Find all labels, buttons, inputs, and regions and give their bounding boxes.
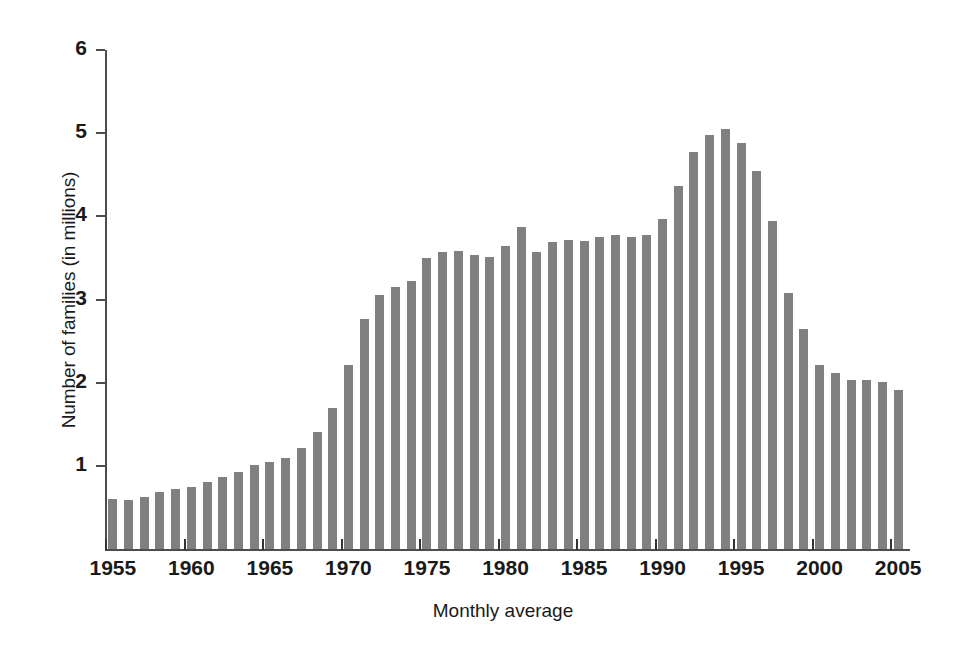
bar-1978 bbox=[470, 255, 479, 549]
bar-1990 bbox=[658, 219, 667, 549]
bar-2002 bbox=[847, 380, 856, 549]
bar-1998 bbox=[784, 293, 793, 549]
bar-1955 bbox=[108, 499, 117, 549]
x-axis-line bbox=[105, 549, 910, 551]
y-tick-5: 5 bbox=[96, 132, 105, 134]
bar-1970 bbox=[344, 365, 353, 549]
y-tick-label-3: 3 bbox=[75, 287, 96, 309]
bar-1985 bbox=[580, 241, 589, 549]
bar-1980 bbox=[501, 246, 510, 549]
bar-1981 bbox=[517, 227, 526, 549]
y-tick-label-5: 5 bbox=[75, 120, 96, 142]
y-tick-1: 1 bbox=[96, 465, 105, 467]
bar-1979 bbox=[485, 257, 494, 549]
bar-1997 bbox=[768, 221, 777, 549]
bar-1964 bbox=[250, 465, 259, 549]
y-tick-label-2: 2 bbox=[75, 370, 96, 392]
bar-1973 bbox=[391, 287, 400, 549]
bar-1976 bbox=[438, 252, 447, 549]
bar-1992 bbox=[689, 152, 698, 549]
x-tick-label-1980: 1980 bbox=[482, 556, 529, 580]
bar-1996 bbox=[752, 171, 761, 549]
bar-1958 bbox=[155, 492, 164, 549]
bar-1984 bbox=[564, 240, 573, 549]
y-tick-4: 4 bbox=[96, 215, 105, 217]
bar-2003 bbox=[862, 380, 871, 549]
x-tick-label-1985: 1985 bbox=[561, 556, 608, 580]
x-tick-label-1995: 1995 bbox=[718, 556, 765, 580]
bar-2005 bbox=[894, 390, 903, 549]
bar-1956 bbox=[124, 500, 133, 549]
bar-1959 bbox=[171, 489, 180, 549]
bar-1962 bbox=[218, 477, 227, 549]
bar-1960 bbox=[187, 487, 196, 549]
bar-1971 bbox=[360, 319, 369, 549]
bar-1999 bbox=[799, 329, 808, 549]
x-axis-title: Monthly average bbox=[100, 600, 906, 622]
bar-1995 bbox=[737, 143, 746, 549]
bar-1966 bbox=[281, 458, 290, 549]
bar-chart: Number of families (in millions) 123456 … bbox=[0, 0, 954, 650]
bar-2004 bbox=[878, 382, 887, 549]
x-tick-label-2000: 2000 bbox=[796, 556, 843, 580]
y-tick-label-1: 1 bbox=[75, 453, 96, 475]
y-tick-6: 6 bbox=[96, 49, 105, 51]
bar-1961 bbox=[203, 482, 212, 549]
bar-1986 bbox=[595, 237, 604, 549]
bar-1969 bbox=[328, 408, 337, 549]
bar-2001 bbox=[831, 373, 840, 549]
bar-1974 bbox=[407, 281, 416, 549]
bar-1994 bbox=[721, 129, 730, 549]
bar-1975 bbox=[422, 258, 431, 549]
plot-area bbox=[105, 50, 906, 549]
y-tick-label-4: 4 bbox=[75, 203, 96, 225]
bar-1983 bbox=[548, 242, 557, 549]
bar-1967 bbox=[297, 448, 306, 549]
bar-1977 bbox=[454, 251, 463, 549]
bar-2000 bbox=[815, 365, 824, 549]
bar-1972 bbox=[375, 295, 384, 549]
x-tick-label-1990: 1990 bbox=[639, 556, 686, 580]
x-tick-label-1965: 1965 bbox=[247, 556, 294, 580]
bar-1965 bbox=[265, 462, 274, 549]
x-tick-label-1955: 1955 bbox=[89, 556, 136, 580]
bar-1957 bbox=[140, 497, 149, 549]
bar-1989 bbox=[642, 235, 651, 549]
y-tick-label-6: 6 bbox=[75, 37, 96, 59]
y-tick-2: 2 bbox=[96, 382, 105, 384]
bar-1993 bbox=[705, 135, 714, 549]
bar-1987 bbox=[611, 235, 620, 549]
bar-1988 bbox=[627, 237, 636, 549]
bar-1963 bbox=[234, 472, 243, 549]
bar-1982 bbox=[532, 252, 541, 549]
bar-1968 bbox=[313, 432, 322, 549]
y-tick-3: 3 bbox=[96, 299, 105, 301]
x-tick-label-1960: 1960 bbox=[168, 556, 215, 580]
x-tick-label-1975: 1975 bbox=[404, 556, 451, 580]
x-tick-label-1970: 1970 bbox=[325, 556, 372, 580]
bar-1991 bbox=[674, 186, 683, 549]
x-tick-label-2005: 2005 bbox=[875, 556, 922, 580]
